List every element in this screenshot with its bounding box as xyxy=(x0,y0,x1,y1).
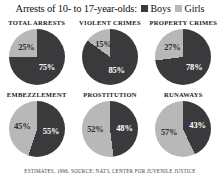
pie-wrap: 15%85% xyxy=(82,29,138,85)
pie-chart-grid: TOTAL ARRESTS25%75%VIOLENT CRIMES15%85%P… xyxy=(0,16,220,161)
pie-graphic xyxy=(155,29,211,85)
source-note: ESTIMATES, 1996. SOURCE: NAT'L CENTER FO… xyxy=(0,168,220,174)
pie-wrap: 57%43% xyxy=(155,101,211,157)
slice-label-girls: 45% xyxy=(14,122,30,131)
pie-title: PROSTITUTION xyxy=(83,90,137,100)
pie-wrap: 27%78% xyxy=(155,29,211,85)
slice-label-boys: 85% xyxy=(108,66,124,75)
slice-label-girls: 25% xyxy=(18,42,34,51)
boys-swatch-icon xyxy=(141,5,148,12)
chart-header: Arrests of 10- to 17-year-olds: Boys Gir… xyxy=(0,0,220,16)
girls-swatch-icon xyxy=(175,5,182,12)
pie-graphic xyxy=(9,29,65,85)
slice-label-girls: 27% xyxy=(164,43,180,52)
pie-title: EMBEZZLEMENT xyxy=(7,90,67,100)
slice-label-boys: 78% xyxy=(186,62,202,71)
pie-cell: VIOLENT CRIMES15%85% xyxy=(73,18,146,90)
legend-label-boys: Boys xyxy=(150,3,171,14)
slice-label-boys: 43% xyxy=(189,121,205,130)
pie-wrap: 25%75% xyxy=(9,29,65,85)
legend-label-girls: Girls xyxy=(184,3,204,14)
pie-cell: EMBEZZLEMENT45%55% xyxy=(0,90,73,162)
pie-cell: PROPERTY CRIMES27%78% xyxy=(147,18,220,90)
pie-title: PROPERTY CRIMES xyxy=(150,18,218,28)
pie-wrap: 45%55% xyxy=(9,101,65,157)
slice-label-boys: 48% xyxy=(116,123,132,132)
pie-title: VIOLENT CRIMES xyxy=(79,18,141,28)
slice-label-girls: 57% xyxy=(161,127,177,136)
pie-title: RUNAWAYS xyxy=(164,90,203,100)
pie-cell: TOTAL ARRESTS25%75% xyxy=(0,18,73,90)
pie-graphic xyxy=(82,29,138,85)
slice-label-girls: 15% xyxy=(95,40,111,49)
pie-cell: RUNAWAYS57%43% xyxy=(147,90,220,162)
pie-title: TOTAL ARRESTS xyxy=(8,18,65,28)
legend-entry-boys: Boys xyxy=(141,3,171,14)
slice-label-boys: 75% xyxy=(39,63,55,72)
page-title: Arrests of 10- to 17-year-olds: xyxy=(16,3,137,14)
slice-label-girls: 52% xyxy=(87,125,103,134)
pie-cell: PROSTITUTION52%48% xyxy=(73,90,146,162)
pie-wrap: 52%48% xyxy=(82,101,138,157)
legend-entry-girls: Girls xyxy=(175,3,205,14)
slice-label-boys: 55% xyxy=(43,127,59,136)
